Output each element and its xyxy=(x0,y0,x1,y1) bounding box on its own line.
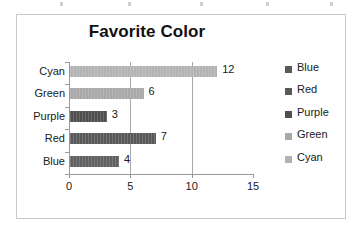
x-axis-tick xyxy=(69,174,70,178)
x-axis-line xyxy=(69,174,253,175)
text-artifact-row xyxy=(0,2,364,7)
bar-row: Cyan12 xyxy=(69,62,253,84)
bar xyxy=(70,88,144,99)
y-axis-tick xyxy=(65,152,69,153)
category-label: Blue xyxy=(5,155,65,167)
text-fleck xyxy=(128,2,131,6)
legend-swatch xyxy=(285,156,292,163)
legend-label: Blue xyxy=(297,61,319,73)
x-axis-tick xyxy=(192,174,193,178)
plot-area: 051015 Cyan12Green6Purple3Red7Blue4 xyxy=(69,62,253,174)
bar-value-label: 3 xyxy=(112,108,118,120)
bar xyxy=(70,66,217,77)
x-axis-tick-label: 5 xyxy=(127,180,133,192)
bar-row: Purple3 xyxy=(69,107,253,129)
x-axis-tick xyxy=(253,174,254,178)
legend-item: Cyan xyxy=(285,151,355,173)
chart-screenshot: Favorite Color 051015 Cyan12Green6Purple… xyxy=(0,0,364,230)
legend-swatch xyxy=(285,88,292,95)
legend-label: Cyan xyxy=(297,151,323,163)
legend-item: Purple xyxy=(285,106,355,128)
x-axis-tick-label: 15 xyxy=(247,180,259,192)
category-label: Green xyxy=(5,87,65,99)
y-axis-tick xyxy=(65,62,69,63)
text-fleck xyxy=(266,2,269,6)
text-fleck xyxy=(200,2,203,6)
bar-value-label: 12 xyxy=(222,63,234,75)
chart-legend: BlueRedPurpleGreenCyan xyxy=(285,61,355,173)
bar-value-label: 4 xyxy=(124,153,130,165)
bar-row: Blue4 xyxy=(69,152,253,174)
category-label: Cyan xyxy=(5,65,65,77)
bar-value-label: 6 xyxy=(149,85,155,97)
bar-row: Red7 xyxy=(69,129,253,151)
y-axis-tick xyxy=(65,174,69,175)
y-axis-tick xyxy=(65,129,69,130)
category-label: Red xyxy=(5,132,65,144)
legend-item: Green xyxy=(285,128,355,150)
legend-item: Red xyxy=(285,83,355,105)
y-axis-tick xyxy=(65,107,69,108)
legend-swatch xyxy=(285,111,292,118)
x-axis-tick-label: 0 xyxy=(66,180,72,192)
y-axis-tick xyxy=(65,84,69,85)
legend-swatch xyxy=(285,66,292,73)
bar xyxy=(70,156,119,167)
text-fleck xyxy=(60,2,63,6)
chart-title: Favorite Color xyxy=(17,22,277,42)
cut-off-text-sliver xyxy=(0,0,364,11)
x-axis-tick-label: 10 xyxy=(186,180,198,192)
bar xyxy=(70,133,156,144)
chart-frame: Favorite Color 051015 Cyan12Green6Purple… xyxy=(16,14,346,219)
legend-swatch xyxy=(285,133,292,140)
legend-item: Blue xyxy=(285,61,355,83)
legend-label: Red xyxy=(297,83,317,95)
legend-label: Purple xyxy=(297,106,329,118)
legend-label: Green xyxy=(297,128,328,140)
bar-row: Green6 xyxy=(69,84,253,106)
bar-value-label: 7 xyxy=(161,130,167,142)
category-label: Purple xyxy=(5,110,65,122)
bar xyxy=(70,111,107,122)
x-axis-tick xyxy=(130,174,131,178)
text-fleck xyxy=(330,2,333,6)
